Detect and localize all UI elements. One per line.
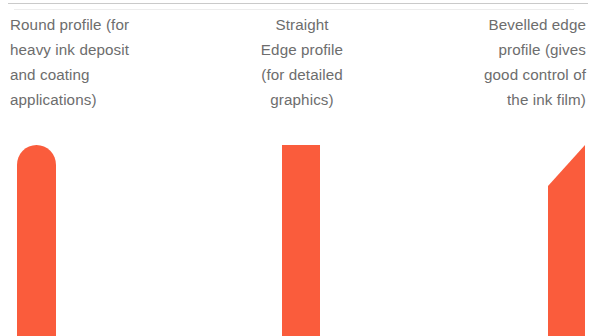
caption-straight-edge-profile: Straight Edge profile (for detailed grap… (243, 12, 361, 112)
caption-bevelled-edge-profile: Bevelled edge profile (gives good contro… (437, 12, 586, 112)
blade-profile-straight-edge-shape (282, 145, 320, 336)
scan-artifact-line-secondary (14, 9, 574, 10)
blade-profile-round-shape (17, 145, 56, 336)
caption-round-profile: Round profile (for heavy ink deposit and… (10, 12, 200, 112)
blade-profile-bevelled-edge-shape (548, 145, 585, 336)
scan-artifact-line (8, 3, 588, 4)
diagram-canvas: Round profile (for heavy ink deposit and… (0, 0, 595, 336)
